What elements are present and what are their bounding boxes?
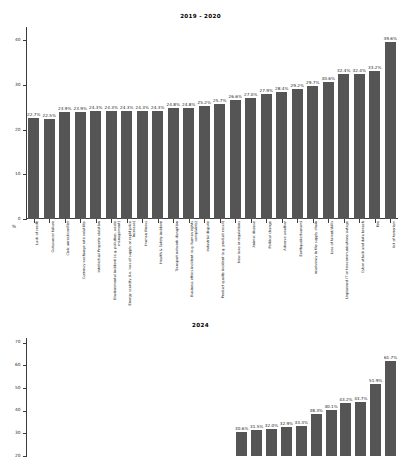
bar-item: 25.7% <box>214 27 225 219</box>
bar <box>251 430 262 456</box>
category-label: Product quality incident (e.g. product r… <box>221 221 225 309</box>
category-label: Animal disease <box>252 221 256 309</box>
bar <box>75 112 86 219</box>
bar-item <box>221 338 232 456</box>
bar-item <box>28 338 39 456</box>
category-label: Act of terrorism <box>392 221 396 309</box>
bar-item: 33.3% <box>296 338 307 456</box>
bar-item: 39.6% <box>385 27 396 219</box>
y-tick: 40 <box>23 40 28 41</box>
y-tick-label: 30 <box>15 430 22 435</box>
bar <box>183 108 194 219</box>
bar <box>137 111 148 220</box>
bar <box>338 74 349 219</box>
category-label: Outsourcer failure <box>51 221 55 309</box>
chart-title-2024: 2024 <box>0 322 401 328</box>
bar <box>340 403 351 456</box>
bar <box>44 119 55 219</box>
y-tick: 30 <box>23 433 28 434</box>
bar-item: 30.6% <box>236 338 247 456</box>
category-label: Health & Safety incident <box>159 221 163 309</box>
bar <box>323 82 334 219</box>
bar-item: 33.2% <box>369 27 380 219</box>
bar-item: 43.7% <box>355 338 366 456</box>
bar-item: 27.9% <box>261 27 272 219</box>
y-tick: 60 <box>23 365 28 366</box>
bar <box>266 429 277 456</box>
bar <box>354 74 365 219</box>
y-tick-label: 40 <box>15 37 22 42</box>
risk-comparison-figure: 2019 - 2020 22.7%22.5%23.9%23.9%24.3%24.… <box>0 0 401 457</box>
y-tick-label: 20 <box>15 453 22 457</box>
bar-item: 27.0% <box>245 27 256 219</box>
plot-area-2024: 30.6%31.5%32.0%32.9%33.3%38.3%40.1%43.2%… <box>26 338 398 456</box>
bar <box>355 402 366 456</box>
category-label: Currency exchange rate volatility <box>82 221 86 309</box>
category-label: Earthquake/tsunami <box>299 221 303 309</box>
bar-item: 24.3% <box>106 27 117 219</box>
bar-item <box>73 338 84 456</box>
bar-item <box>87 338 98 456</box>
bar <box>385 42 396 219</box>
category-label: Intellectual Property violation <box>97 221 101 309</box>
bar-item: 23.9% <box>59 27 70 219</box>
bar-item: 22.5% <box>44 27 55 219</box>
bar-item <box>177 338 188 456</box>
y-tick-label: 0 <box>18 216 23 221</box>
bar <box>152 111 163 220</box>
y-tick-label: 30 <box>15 82 22 87</box>
bar <box>307 86 318 219</box>
bar-item: 22.7% <box>28 27 39 219</box>
bar <box>281 427 292 456</box>
y-tick-label: 60 <box>15 362 22 367</box>
y-tick: 30 <box>23 85 28 86</box>
category-label: Adverse weather <box>283 221 287 309</box>
category-label: Civic unrest/conflict <box>66 221 70 309</box>
bar-value-label: 61.7% <box>371 355 401 360</box>
y-tick: 40 <box>23 411 28 412</box>
bar-item: 31.5% <box>251 338 262 456</box>
bar <box>236 432 247 456</box>
bar-item: 38.3% <box>311 338 322 456</box>
category-label: Business ethics incident (e.g. human rig… <box>190 221 198 309</box>
bar-item: 25.2% <box>199 27 210 219</box>
y-tick-label: 20 <box>15 127 22 132</box>
bar-item: 23.9% <box>75 27 86 219</box>
bar <box>90 111 101 220</box>
bar <box>121 111 132 220</box>
bar <box>370 384 381 456</box>
bar-item: 32.0% <box>266 338 277 456</box>
y-tick: 10 <box>23 174 28 175</box>
y-tick-label: 40 <box>15 407 22 412</box>
category-label: Political change <box>268 221 272 309</box>
bar-item: 24.3% <box>152 27 163 219</box>
y-tick: 20 <box>23 130 28 131</box>
category-label: Cyber attack and data breach <box>361 221 365 309</box>
bar-item: 26.6% <box>230 27 241 219</box>
plot-area-2019-2020: 22.7%22.5%23.9%23.9%24.3%24.3%24.3%24.3%… <box>26 27 398 219</box>
bar-item: 29.7% <box>307 27 318 219</box>
bar <box>28 118 39 219</box>
bar-item <box>43 338 54 456</box>
bar <box>385 361 396 456</box>
category-label: New laws or regulations <box>237 221 241 309</box>
x-axis-category-labels: Lack of creditOutsourcer failureCivic un… <box>26 219 398 311</box>
bar-item: 32.4% <box>354 27 365 219</box>
bar <box>276 92 287 219</box>
category-label: Fire <box>376 221 380 309</box>
bar-item: 24.3% <box>137 27 148 219</box>
bar <box>245 98 256 219</box>
chart-title-2019-2020: 2019 - 2020 <box>0 13 401 19</box>
bar-item: 61.7% <box>385 338 396 456</box>
bar-item: 24.3% <box>90 27 101 219</box>
chart-panel-2024: 2024 30.6%31.5%32.0%32.9%33.3%38.3%40.1%… <box>0 312 401 457</box>
bar <box>369 71 380 219</box>
bar-item: 24.8% <box>168 27 179 219</box>
chart-panel-2019-2020: 2019 - 2020 22.7%22.5%23.9%23.9%24.3%24.… <box>0 0 401 312</box>
bar <box>326 410 337 456</box>
bar-item: 29.2% <box>292 27 303 219</box>
bar-item: 28.4% <box>276 27 287 219</box>
bar-item: 32.4% <box>338 27 349 219</box>
bar-item <box>102 338 113 456</box>
bar-item <box>147 338 158 456</box>
